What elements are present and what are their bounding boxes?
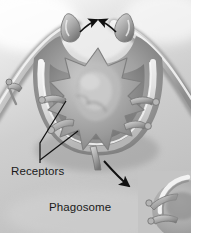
phagosome-inset: [138, 171, 200, 233]
right-margin: [191, 0, 200, 233]
receptors-label: Receptors: [11, 166, 64, 178]
phagosome-label: Phagosome: [49, 202, 111, 214]
illustration-canvas: [0, 0, 200, 233]
phagocytosis-figure: Receptors Phagosome: [0, 0, 200, 233]
